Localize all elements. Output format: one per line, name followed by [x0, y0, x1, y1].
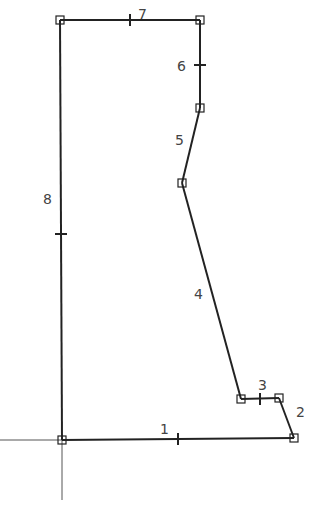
edge-label-8: 8 — [43, 191, 52, 207]
edge-2[interactable] — [279, 398, 294, 438]
edge-label-5: 5 — [175, 132, 184, 148]
edge-midpoint-ticks — [55, 14, 260, 445]
edge-label-4: 4 — [194, 286, 203, 302]
edge-label-6: 6 — [177, 58, 186, 74]
edge-labels: 12345678 — [43, 6, 305, 437]
edge-label-1: 1 — [160, 421, 169, 437]
edge-4[interactable] — [182, 183, 241, 399]
edge-label-3: 3 — [258, 377, 267, 393]
edge-8[interactable] — [60, 20, 62, 440]
coordinate-axes — [0, 440, 62, 500]
edge-label-7: 7 — [138, 6, 147, 22]
edge-5[interactable] — [182, 108, 200, 183]
drawing-canvas[interactable]: 12345678 — [0, 0, 318, 510]
edge-label-2: 2 — [296, 404, 305, 420]
